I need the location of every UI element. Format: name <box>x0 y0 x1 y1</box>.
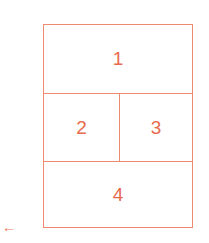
layout-frame: 1 2 3 4 <box>43 24 193 228</box>
cell-2: 2 <box>44 94 119 161</box>
cell-1: 1 <box>44 25 192 93</box>
cell-4: 4 <box>44 162 192 227</box>
cell-2-label: 2 <box>76 117 87 139</box>
cell-3-label: 3 <box>151 117 162 139</box>
cell-3: 3 <box>120 94 192 161</box>
cell-1-label: 1 <box>113 48 124 70</box>
left-arrow-icon: ← <box>2 220 16 234</box>
cell-4-label: 4 <box>113 184 124 206</box>
